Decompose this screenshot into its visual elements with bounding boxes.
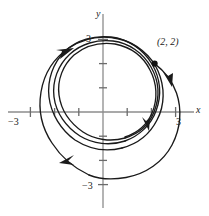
start-point-marker xyxy=(152,61,158,67)
phase-portrait-plot xyxy=(0,0,209,216)
direction-arrow-lower-left xyxy=(59,155,74,165)
y-axis-tick-label-neg3: −3 xyxy=(82,180,93,191)
x-axis-label: x xyxy=(196,104,200,115)
trajectory-winding-3 xyxy=(54,41,158,144)
x-axis-tick-label-pos3: 3 xyxy=(176,116,181,127)
x-axis-tick-label-neg3: −3 xyxy=(8,116,19,127)
y-axis-label: y xyxy=(96,8,100,19)
start-point-label: (2, 2) xyxy=(157,36,179,47)
figure-canvas: −3 3 3 −3 x y (2, 2) xyxy=(0,0,209,216)
direction-arrow-entry xyxy=(163,72,173,87)
limit-cycle-path xyxy=(59,43,156,140)
y-axis-tick-label-pos3: 3 xyxy=(86,33,91,44)
